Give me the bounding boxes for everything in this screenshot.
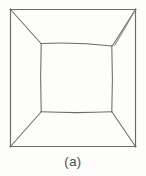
bottom-right-diagonal [112,112,136,147]
figure-caption: (a) [0,154,146,170]
inner-square-left-edge [41,44,42,113]
top-left-diagonal [11,10,42,44]
inner-square-bottom-edge [41,112,112,113]
corner-diagonals [11,10,136,147]
inner-square-right-edge [112,46,113,112]
inner-square [41,43,113,113]
perspective-square-drawing [0,0,146,176]
figure-panel: (a) [0,0,146,176]
inner-square-top-edge [41,43,112,46]
bottom-left-diagonal [11,112,42,147]
top-right-diagonal-double [115,10,135,45]
